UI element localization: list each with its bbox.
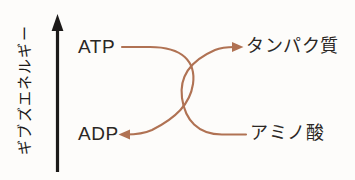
node-label-protein: タンパク質 xyxy=(246,37,339,55)
axis-label-container: ギブズエネルギー xyxy=(0,0,70,180)
energy-coupling-figure: ギブズエネルギー ATP ADP タンパク質 アミノ酸 xyxy=(0,0,355,180)
node-label-adp: ADP xyxy=(78,124,119,143)
gibbs-energy-axis-label: ギブズエネルギー xyxy=(13,25,34,155)
left-arrowhead-icon xyxy=(119,130,131,140)
node-label-amino-acid: アミノ酸 xyxy=(250,124,324,142)
downhill-curve xyxy=(122,47,193,135)
right-arrowhead-icon xyxy=(232,42,244,52)
node-label-atp: ATP xyxy=(78,37,115,56)
